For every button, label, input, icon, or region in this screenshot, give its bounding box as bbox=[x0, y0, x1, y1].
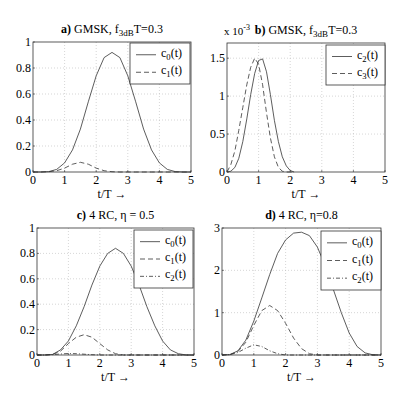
legend: c0(t)c1(t) bbox=[130, 43, 190, 84]
x-tick-label: 5 bbox=[382, 173, 388, 187]
chart-panel-b: 01234500.511.5t/T →b) GMSK, f3dBT=0.3x 1… bbox=[210, 23, 388, 201]
x-tick-label: 1 bbox=[62, 173, 68, 187]
chart-title: d) 4 RC, η=0.8 bbox=[265, 208, 338, 222]
x-tick-label: 2 bbox=[287, 173, 293, 187]
y-tick-label: 0.6 bbox=[20, 272, 35, 286]
x-tick-label: 5 bbox=[378, 356, 384, 370]
legend: c0(t)c1(t)c2(t) bbox=[321, 231, 381, 290]
chart-panel-c: 01234500.20.40.60.81t/T →c) 4 RC, η = 0.… bbox=[20, 208, 197, 384]
x-tick-label: 1 bbox=[65, 356, 71, 370]
y-tick-label: 2 bbox=[214, 263, 220, 277]
y-tick-label: 1 bbox=[29, 221, 35, 235]
y-tick-label: 0.8 bbox=[16, 61, 31, 75]
legend-label-c0: c0(t) bbox=[165, 233, 186, 249]
x-tick-label: 1 bbox=[256, 173, 262, 187]
x-axis-label: t/T → bbox=[101, 370, 130, 384]
y-tick-label: 0.6 bbox=[16, 87, 31, 101]
y-tick-label: 0 bbox=[214, 348, 220, 362]
legend-label-c1: c1(t) bbox=[161, 63, 182, 79]
legend-label-c1: c1(t) bbox=[165, 250, 186, 266]
y-tick-label: 1 bbox=[214, 306, 220, 320]
y-tick-label: 0.2 bbox=[16, 139, 31, 153]
series-lines bbox=[227, 58, 294, 172]
x-tick-label: 5 bbox=[188, 173, 194, 187]
y-tick-label: 0 bbox=[219, 165, 225, 179]
series-c3 bbox=[227, 58, 294, 172]
y-tick-label: 1 bbox=[219, 89, 225, 103]
x-axis-label: t/T → bbox=[292, 187, 321, 201]
x-tick-label: 2 bbox=[97, 356, 103, 370]
x-tick-label: 4 bbox=[156, 173, 162, 187]
chart-title: b) GMSK, f3dBT=0.3 bbox=[255, 23, 357, 39]
legend-label-c0: c0(t) bbox=[352, 234, 373, 250]
chart-title: c) 4 RC, η = 0.5 bbox=[77, 208, 154, 222]
chart-panel-d: 0123450123t/T →d) 4 RC, η=0.8c0(t)c1(t)c… bbox=[214, 208, 384, 384]
y-tick-label: 0 bbox=[29, 348, 35, 362]
chart-title: a) GMSK, f3dBT=0.3 bbox=[61, 22, 163, 38]
legend-label-c1: c1(t) bbox=[352, 252, 373, 268]
x-tick-label: 4 bbox=[346, 356, 352, 370]
x-tick-label: 4 bbox=[160, 356, 166, 370]
x-tick-label: 3 bbox=[314, 356, 320, 370]
x-tick-label: 5 bbox=[191, 356, 197, 370]
y-tick-label: 1 bbox=[25, 35, 31, 49]
legend: c2(t)c3(t) bbox=[326, 45, 385, 85]
x-tick-label: 4 bbox=[350, 173, 356, 187]
series-c1 bbox=[33, 162, 191, 172]
y-tick-label: 0.5 bbox=[210, 127, 225, 141]
legend-label-c3: c3(t) bbox=[357, 65, 378, 81]
x-axis-label: t/T → bbox=[287, 370, 316, 384]
y-multiplier: x 10-3 bbox=[224, 23, 250, 37]
y-tick-label: 1.5 bbox=[210, 51, 225, 65]
y-tick-label: 0.4 bbox=[20, 297, 35, 311]
chart-panel-a: 01234500.20.40.60.81t/T →a) GMSK, f3dBT=… bbox=[16, 22, 194, 201]
legend-label-c0: c0(t) bbox=[161, 46, 182, 62]
legend-label-c2: c2(t) bbox=[165, 267, 186, 283]
x-tick-label: 2 bbox=[93, 173, 99, 187]
y-tick-label: 0 bbox=[25, 165, 31, 179]
y-tick-label: 0.4 bbox=[16, 113, 31, 127]
figure: 01234500.20.40.60.81t/T →a) GMSK, f3dBT=… bbox=[0, 0, 405, 398]
series-c1 bbox=[37, 335, 194, 355]
y-tick-label: 3 bbox=[214, 221, 220, 235]
x-tick-label: 2 bbox=[283, 356, 289, 370]
x-tick-label: 3 bbox=[125, 173, 131, 187]
x-axis-label: t/T → bbox=[98, 187, 127, 201]
y-tick-label: 0.8 bbox=[20, 246, 35, 260]
legend-label-c2: c2(t) bbox=[357, 48, 378, 64]
x-tick-label: 1 bbox=[251, 356, 257, 370]
x-tick-label: 3 bbox=[128, 356, 134, 370]
y-tick-label: 0.2 bbox=[20, 323, 35, 337]
legend: c0(t)c1(t)c2(t) bbox=[134, 230, 193, 288]
legend-label-c2: c2(t) bbox=[352, 269, 373, 285]
x-tick-label: 3 bbox=[319, 173, 325, 187]
